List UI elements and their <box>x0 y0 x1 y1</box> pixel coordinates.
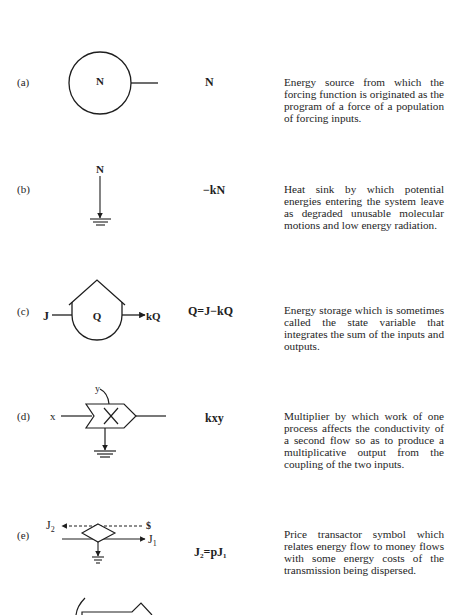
equation-b: −kN <box>203 183 225 198</box>
energy-source-label: N <box>96 75 104 87</box>
heat-sink-icon <box>90 176 111 225</box>
multiplier-icon <box>61 389 166 457</box>
storage-input-label: J <box>43 309 49 323</box>
description-d: Multiplier by which work of one process … <box>284 410 444 470</box>
j1-label: J1 <box>148 532 157 548</box>
equation-a: N <box>205 75 214 90</box>
description-a: Energy source from which the forcing fun… <box>284 76 444 124</box>
multiplier-input-y: y <box>95 383 100 394</box>
multiplier-input-x: x <box>50 410 56 422</box>
equation-c: Q=J−kQ <box>188 304 233 319</box>
description-b: Heat sink by which potential energies en… <box>284 183 444 231</box>
storage-state-label: Q <box>93 310 102 322</box>
energy-source-icon <box>69 52 158 114</box>
heat-sink-label: N <box>96 163 104 175</box>
equation-d: kxy <box>205 411 224 426</box>
money-flow-label: $ <box>146 520 151 531</box>
description-e: Price transactor symbol which relates en… <box>284 528 444 576</box>
equation-e: J₂=pJ₁ <box>194 545 227 560</box>
description-c: Energy storage which is sometimes called… <box>284 304 444 352</box>
storage-output-label: kQ <box>146 310 161 322</box>
partial-next-symbol-icon <box>76 598 152 615</box>
price-transactor-icon <box>62 524 145 563</box>
j2-label: J2 <box>46 518 55 534</box>
